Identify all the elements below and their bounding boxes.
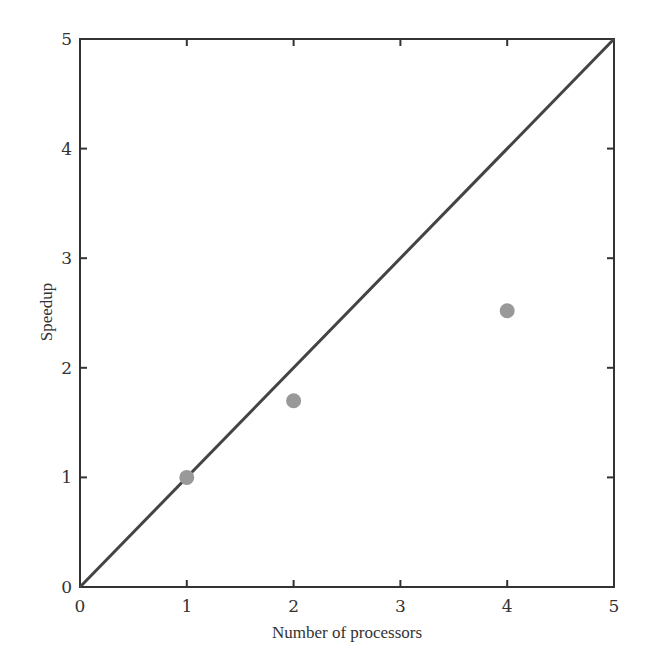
ideal-speedup-line xyxy=(80,39,614,587)
y-tick-label: 3 xyxy=(61,248,72,268)
y-tick-label: 4 xyxy=(61,139,72,159)
y-tick-label: 1 xyxy=(61,467,72,487)
speedup-chart: 012345012345 Number of processors Speedu… xyxy=(0,0,656,669)
y-tick-label: 0 xyxy=(61,577,72,597)
series-layer xyxy=(80,39,614,587)
data-point xyxy=(286,393,301,408)
data-point xyxy=(179,470,194,485)
x-tick-label: 2 xyxy=(288,596,299,616)
x-axis-label: Number of processors xyxy=(272,623,422,642)
x-tick-label: 5 xyxy=(609,596,620,616)
data-point xyxy=(500,303,515,318)
x-tick-label: 1 xyxy=(181,596,192,616)
y-tick-label: 5 xyxy=(61,29,72,49)
axis-tick-labels: 012345012345 xyxy=(61,29,619,616)
y-tick-label: 2 xyxy=(61,358,72,378)
x-tick-label: 3 xyxy=(395,596,406,616)
x-tick-label: 0 xyxy=(75,596,86,616)
y-axis-label: Speedup xyxy=(37,283,56,342)
x-tick-label: 4 xyxy=(502,596,513,616)
